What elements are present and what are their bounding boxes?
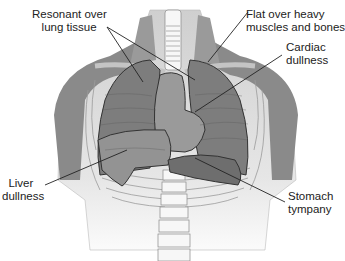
percussion-diagram: Resonant over lung tissue Flat over heav… bbox=[0, 0, 345, 261]
label-flat-over-muscles-bones: Flat over heavy muscles and bones bbox=[246, 8, 345, 34]
label-resonant-over-lung-tissue: Resonant over lung tissue bbox=[32, 8, 107, 34]
label-liver-dullness: Liver dullness bbox=[2, 177, 44, 203]
label-stomach-tympany: Stomach tympany bbox=[288, 190, 333, 216]
right-trapezius bbox=[194, 15, 220, 65]
label-cardiac-dullness: Cardiac dullness bbox=[286, 41, 328, 67]
left-trapezius bbox=[130, 15, 156, 65]
torso-illustration bbox=[0, 0, 345, 261]
